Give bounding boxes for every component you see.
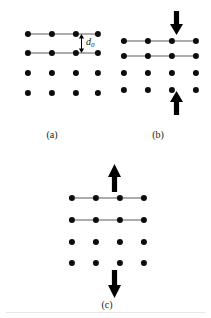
force-arrow-down-icon xyxy=(108,270,121,298)
lattice-dot xyxy=(141,239,147,245)
lattice-bond xyxy=(28,34,98,35)
panel-a: d0 (a) xyxy=(8,0,108,145)
lattice-bond xyxy=(72,220,144,221)
lattice-dot xyxy=(169,53,175,59)
lattice-dot xyxy=(95,31,101,37)
lattice-dot xyxy=(193,53,199,59)
spacing-subscript: 0 xyxy=(91,41,95,49)
lattice-dot xyxy=(73,90,79,96)
lattice-dot xyxy=(141,195,147,201)
lattice-dot xyxy=(121,70,127,76)
panel-c: (c) xyxy=(56,160,161,318)
figure-root: d0 (a) (b) (c) xyxy=(0,0,211,318)
lattice-dot xyxy=(121,87,127,93)
lattice-dot xyxy=(117,260,123,266)
lattice-dot xyxy=(69,239,75,245)
lattice-dot xyxy=(95,50,101,56)
lattice-dot xyxy=(193,87,199,93)
lattice-dot xyxy=(121,38,127,44)
panel-label-b: (b) xyxy=(149,130,167,140)
lattice-dot xyxy=(93,217,99,223)
lattice-dot xyxy=(193,38,199,44)
lattice-dot xyxy=(49,50,55,56)
lattice-dot xyxy=(145,70,151,76)
lattice-dot xyxy=(49,70,55,76)
lattice-dot xyxy=(145,87,151,93)
lattice-bond xyxy=(28,53,98,54)
force-arrow-down-icon xyxy=(170,11,183,35)
lattice-dot xyxy=(141,217,147,223)
lattice-dot xyxy=(117,239,123,245)
panel-label-a: (a) xyxy=(43,130,61,140)
lattice-dot xyxy=(117,195,123,201)
dimension-double-arrow-icon xyxy=(77,34,86,53)
lattice-dot xyxy=(95,90,101,96)
lattice-dot xyxy=(141,260,147,266)
lattice-dot xyxy=(145,53,151,59)
lattice-b xyxy=(112,0,211,120)
lattice-dot xyxy=(117,217,123,223)
lattice-dot xyxy=(69,260,75,266)
lattice-dot xyxy=(145,38,151,44)
force-arrow-up-icon xyxy=(170,91,183,115)
lattice-dot xyxy=(49,90,55,96)
panel-label-c: (c) xyxy=(98,300,116,310)
lattice-dot xyxy=(25,50,31,56)
lattice-dot xyxy=(25,70,31,76)
lattice-dot xyxy=(73,70,79,76)
lattice-dot xyxy=(193,70,199,76)
lattice-dot xyxy=(169,70,175,76)
force-arrow-up-icon xyxy=(108,164,121,192)
lattice-dot xyxy=(69,217,75,223)
bottom-rule xyxy=(6,312,205,313)
lattice-dot xyxy=(93,260,99,266)
lattice-bond xyxy=(124,56,196,57)
panel-b: (b) xyxy=(112,0,211,145)
lattice-dot xyxy=(95,70,101,76)
lattice-dot xyxy=(93,239,99,245)
lattice-a xyxy=(8,0,108,110)
lattice-dot xyxy=(93,195,99,201)
lattice-dot xyxy=(25,90,31,96)
spacing-dimension-label: d0 xyxy=(86,37,95,47)
lattice-dot xyxy=(49,31,55,37)
lattice-dot xyxy=(69,195,75,201)
lattice-bond xyxy=(124,41,196,42)
lattice-dot xyxy=(121,53,127,59)
lattice-dot xyxy=(169,38,175,44)
lattice-bond xyxy=(72,198,144,199)
lattice-dot xyxy=(25,31,31,37)
